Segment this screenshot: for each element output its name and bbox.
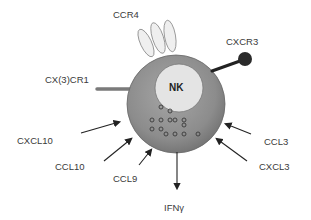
label-cxcr3: CXCR3 <box>226 37 258 47</box>
label-ifng: IFNγ <box>164 203 184 213</box>
cell-label: NK <box>169 82 183 93</box>
cxcl3-arrow-icon <box>217 139 247 161</box>
ccl3-arrow-icon <box>226 124 251 134</box>
label-cxcl3: CXCL3 <box>259 162 290 172</box>
label-ccl3: CCL3 <box>264 137 288 147</box>
cxcr3-receptor-icon <box>212 52 252 71</box>
ccl10-arrow-icon <box>104 139 131 161</box>
cxcl10-arrow-icon <box>81 122 119 133</box>
label-ccl9: CCL9 <box>113 174 137 184</box>
ccr4-receptor-icon <box>135 19 179 59</box>
label-ccr4: CCR4 <box>113 10 139 20</box>
nk-cell-diagram <box>0 0 311 220</box>
label-cxcl10: CXCL10 <box>17 136 53 146</box>
label-cx3cr1: CX(3)CR1 <box>45 75 89 85</box>
label-ccl10: CCL10 <box>55 162 85 172</box>
ccl9-arrow-icon <box>139 150 151 165</box>
